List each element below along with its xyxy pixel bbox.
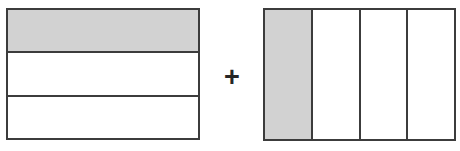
figure-fourths-part-2 <box>311 10 359 139</box>
figure-thirds-part-3 <box>8 95 198 138</box>
diagram-canvas: + <box>0 0 460 151</box>
figure-thirds-part-1 <box>8 10 198 51</box>
figure-thirds-part-2 <box>8 51 198 94</box>
figure-fourths-part-1 <box>265 10 311 139</box>
plus-operator-icon: + <box>214 60 250 94</box>
figure-fourths-part-4 <box>406 10 454 139</box>
figure-fourths-part-3 <box>359 10 407 139</box>
figure-thirds <box>6 8 200 140</box>
figure-fourths <box>263 8 456 141</box>
